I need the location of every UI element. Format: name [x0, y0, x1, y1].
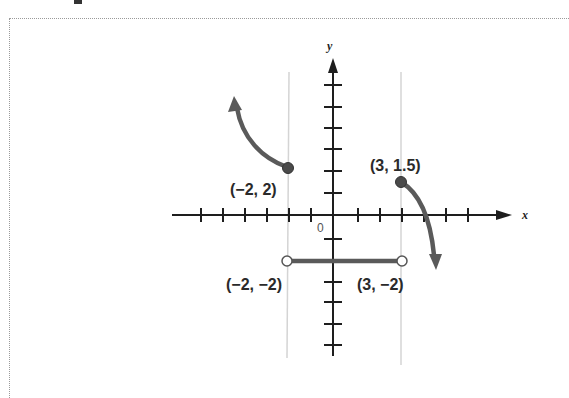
left-branch-curve: [228, 96, 294, 174]
open-point-neg2-neg2: [282, 256, 292, 266]
label-point-neg2-2: (−2, 2): [230, 181, 277, 198]
right-branch-arrow-icon: [429, 254, 442, 270]
label-point-3-neg2: (3, −2): [357, 276, 404, 293]
y-axis-label: y: [325, 39, 333, 53]
open-point-3-neg2: [397, 256, 407, 266]
closed-point-neg2-2: [283, 163, 294, 174]
left-branch-arrow-icon: [228, 96, 242, 112]
y-axis-arrow-icon: [328, 58, 338, 73]
asymptote-lines: [287, 72, 401, 365]
x-axis-arrow-icon: [496, 210, 512, 220]
cropped-text-fragment: [74, 0, 82, 4]
x-axis-label: x: [521, 208, 528, 222]
middle-segment: [282, 256, 407, 266]
x-axis: [172, 208, 512, 222]
label-point-3-1.5: (3, 1.5): [370, 157, 421, 174]
label-point-neg2-neg2: (−2, −2): [226, 276, 282, 293]
y-axis: [324, 58, 342, 356]
closed-point-3-1.5: [396, 177, 407, 188]
origin-label: 0: [317, 221, 324, 235]
